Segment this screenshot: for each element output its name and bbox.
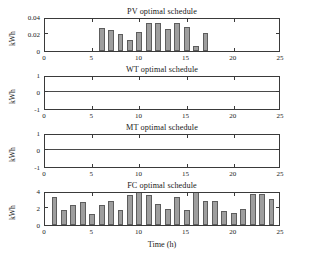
bar [193,192,199,225]
figure-canvas: PV optimal schedule00.020.040510152025kW… [0,0,327,258]
bar [165,209,171,225]
x-tickmark [234,193,235,196]
y-tickmark [276,207,279,208]
x-tick-label: 5 [83,228,99,236]
plot-area-fc [44,192,280,226]
bar [52,197,58,225]
bar [127,195,133,225]
bar [259,194,265,225]
panel-fc: FC optimal schedule0240510152025kWh [0,0,327,258]
bar [118,210,124,225]
bar [61,210,67,225]
bar [174,197,180,225]
bar [269,199,275,225]
x-tickmark [187,193,188,196]
x-tick-label: 0 [36,228,52,236]
bar [240,209,246,225]
x-tick-label: 10 [130,228,146,236]
x-axis-label: Time (h) [44,240,280,249]
y-tick-label: 4 [18,188,40,196]
bar [155,204,161,225]
bar [146,195,152,225]
x-tickmark [92,193,93,196]
x-tick-label: 15 [178,228,194,236]
bar [80,202,86,225]
x-tick-label: 20 [225,228,241,236]
bar [99,205,105,225]
bar [203,201,209,225]
y-tick-label: 2 [18,205,40,213]
bar [70,205,76,225]
bar [184,210,190,225]
bar [221,211,227,225]
bar [136,192,142,225]
bar [108,201,114,225]
bar [250,194,256,225]
panel-title-fc: FC optimal schedule [44,181,280,190]
bar [212,201,218,225]
y-tickmark [45,207,48,208]
bar [231,213,237,225]
x-tick-label: 25 [272,228,288,236]
y-axis-label-fc: kWh [8,205,17,220]
bar [89,214,95,225]
